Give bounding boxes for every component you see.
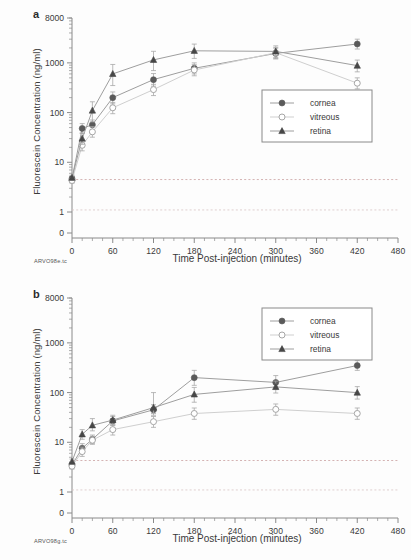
svg-text:60: 60 [108,526,118,536]
svg-text:cornea: cornea [310,98,336,108]
svg-text:1: 1 [59,207,64,217]
svg-text:120: 120 [146,246,161,256]
panel-b: b Fluorescein Concentration (ng/ml) Time… [0,280,411,560]
svg-text:0: 0 [70,246,75,256]
svg-text:cornea: cornea [310,316,336,326]
svg-text:240: 240 [228,246,243,256]
svg-text:0: 0 [59,228,64,238]
svg-text:480: 480 [391,246,406,256]
svg-text:0: 0 [70,526,75,536]
svg-text:180: 180 [187,246,202,256]
svg-text:240: 240 [228,526,243,536]
svg-text:120: 120 [146,526,161,536]
svg-text:480: 480 [391,526,406,536]
svg-text:60: 60 [108,246,118,256]
panel-a: a Fluorescein Concentration (ng/ml) Time… [0,0,411,280]
svg-text:1000: 1000 [45,58,64,68]
svg-text:420: 420 [350,526,365,536]
svg-text:8000: 8000 [45,293,64,303]
svg-text:300: 300 [269,246,284,256]
svg-text:420: 420 [350,246,365,256]
svg-text:1: 1 [59,487,64,497]
svg-text:360: 360 [309,246,324,256]
svg-text:vitreous: vitreous [310,112,339,122]
svg-text:retina: retina [310,126,331,136]
svg-text:retina: retina [310,344,331,354]
svg-text:10: 10 [54,157,64,167]
svg-text:0: 0 [59,508,64,518]
svg-text:8000: 8000 [45,13,64,23]
panel-b-plot: 110100100080000060120180240300360420480c… [0,280,411,560]
panel-a-plot: 110100100080000060120180240300360420480c… [0,0,411,280]
svg-text:100: 100 [50,108,65,118]
svg-text:180: 180 [187,526,202,536]
svg-text:10: 10 [54,437,64,447]
svg-text:1000: 1000 [45,338,64,348]
svg-text:100: 100 [50,388,65,398]
svg-text:300: 300 [269,526,284,536]
figure-root: a Fluorescein Concentration (ng/ml) Time… [0,0,411,560]
svg-text:vitreous: vitreous [310,330,339,340]
svg-text:360: 360 [309,526,324,536]
